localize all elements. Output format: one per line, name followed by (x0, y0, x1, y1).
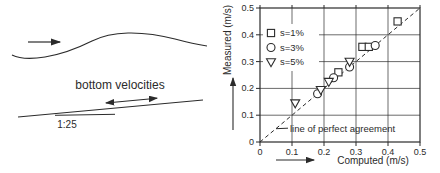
y-axis-title: Measured (m/s) (222, 5, 233, 75)
slope-ratio-label: 1:25 (57, 119, 77, 130)
circle-marker-icon (371, 42, 379, 50)
bottom-velocity-double-arrow-icon (106, 98, 157, 103)
x-tick-label: 0.5 (414, 147, 427, 157)
bottom-velocities-label: bottom velocities (75, 78, 164, 92)
x-tick-label: 0.1 (286, 147, 299, 157)
annotation-pointer-line (276, 128, 288, 129)
square-marker-icon (267, 29, 274, 36)
y-tick-label: 0 (249, 137, 254, 147)
x-tick-label: 0.2 (318, 147, 331, 157)
legend-label: s=3% (280, 42, 305, 53)
x-tick-label: 0 (257, 147, 262, 157)
y-tick-label: 0.1 (241, 110, 254, 120)
triangle-down-marker-icon (324, 78, 333, 86)
y-tick-label: 0.2 (241, 83, 254, 93)
square-marker-icon (394, 18, 401, 25)
legend: s=1%s=3%s=5% (267, 27, 305, 67)
x-axis-title: Computed (m/s) (337, 155, 409, 166)
y-tick-label: 0.3 (241, 57, 254, 67)
figure-bottom-velocities: bottom velocities 1:25 s=1%s=3%s=5% line… (0, 0, 440, 173)
perfect-agreement-label: line of perfect agreement (290, 123, 395, 134)
slope-reference-line (55, 114, 115, 115)
y-tick-label: 0.5 (241, 3, 254, 13)
y-tick-label: 0.4 (241, 30, 254, 40)
legend-label: s=1% (280, 27, 305, 38)
wave-profile-curve (12, 33, 207, 59)
legend-label: s=5% (280, 56, 305, 67)
circle-marker-icon (267, 44, 275, 52)
sketch-panel: bottom velocities 1:25 (0, 0, 220, 173)
scatter-chart-panel: s=1%s=3%s=5% line of perfect agreement 0… (220, 0, 440, 173)
